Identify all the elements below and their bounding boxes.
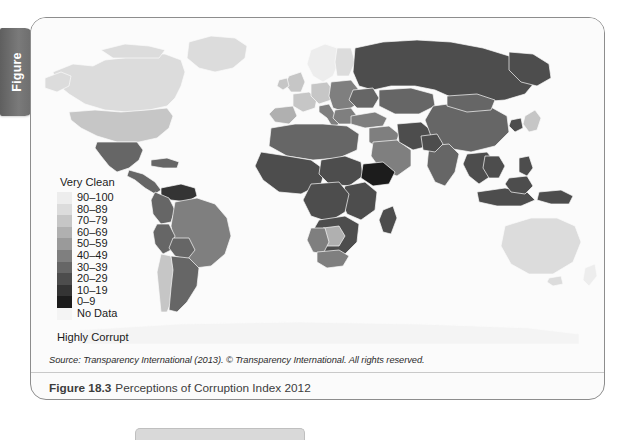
legend-swatch (57, 296, 72, 308)
legend-swatch (57, 192, 72, 204)
legend-swatch (57, 262, 72, 274)
legend-swatch-no-data (57, 308, 72, 320)
figure-tab-label: Figure (10, 52, 24, 91)
legend-label-column: 90–100 80–89 70–79 60–69 50–59 40–49 30–… (77, 192, 117, 320)
legend-swatch (57, 238, 72, 250)
figure-caption: Figure 18.3Perceptions of Corruption Ind… (49, 381, 311, 395)
legend-label: 90–100 (77, 192, 117, 204)
legend-title-very-clean: Very Clean (57, 176, 117, 188)
legend-swatch (57, 273, 72, 285)
legend-label-no-data: No Data (77, 308, 117, 320)
source-attribution: Source: Transparency International (2013… (49, 355, 590, 365)
legend-swatch (57, 250, 72, 262)
caption-divider (31, 372, 604, 373)
region-kazakhstan (379, 88, 435, 114)
legend-swatch (57, 204, 72, 216)
world-map: .ln { stroke:#fbfbfb; stroke-width:0.7; … (31, 18, 604, 348)
legend-swatch (57, 215, 72, 227)
world-map-svg: .ln { stroke:#fbfbfb; stroke-width:0.7; … (39, 24, 599, 344)
figure-caption-title: Perceptions of Corruption Index 2012 (115, 381, 310, 395)
legend-title-highly-corrupt: Highly Corrupt (57, 331, 129, 343)
figure-tab: Figure (0, 28, 34, 116)
legend-swatch-column (57, 192, 72, 320)
legend-label: 20–29 (77, 273, 117, 285)
legend-swatch (57, 227, 72, 239)
legend-body: 90–100 80–89 70–79 60–69 50–59 40–49 30–… (57, 192, 117, 320)
figure-card: .ln { stroke:#fbfbfb; stroke-width:0.7; … (30, 17, 605, 400)
legend-label: 40–49 (77, 250, 117, 262)
below-card-strip (135, 428, 305, 440)
figure-caption-number: Figure 18.3 (49, 381, 111, 395)
map-legend: Very Clean 90–100 80–89 (57, 176, 117, 320)
legend-swatch (57, 285, 72, 297)
